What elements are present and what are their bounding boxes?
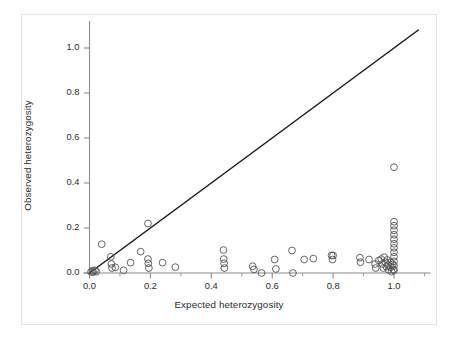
- data-point: [127, 259, 134, 266]
- data-point: [145, 265, 152, 272]
- data-point: [366, 256, 373, 263]
- y-tick-label-4: 0.8: [40, 87, 80, 97]
- data-point: [172, 264, 179, 271]
- data-point: [145, 220, 152, 227]
- x-tick-label-3: 0.6: [252, 281, 292, 291]
- x-tick-label-5: 1.0: [374, 281, 414, 291]
- y-tick-label-3: 0.6: [40, 132, 80, 142]
- data-point: [289, 247, 296, 254]
- x-tick-label-0: 0.0: [70, 281, 110, 291]
- data-point: [272, 266, 279, 273]
- data-point: [310, 255, 317, 262]
- x-axis-title: Expected heterozygosity: [0, 299, 458, 310]
- data-point: [357, 259, 364, 266]
- data-point: [391, 218, 398, 225]
- data-point: [391, 164, 398, 171]
- figure-container: Expected heterozygosity Observed heteroz…: [0, 0, 458, 338]
- y-axis-title: Observed heterozygosity: [22, 66, 33, 246]
- data-point: [271, 256, 278, 263]
- data-point: [372, 265, 379, 272]
- y-tick-label-2: 0.4: [40, 177, 80, 187]
- data-point: [220, 247, 227, 254]
- identity-line: [90, 30, 419, 273]
- data-point: [221, 265, 228, 272]
- y-tick-label-1: 0.2: [40, 222, 80, 232]
- y-tick-label-0: 0.0: [40, 267, 80, 277]
- x-tick-label-4: 0.8: [313, 281, 353, 291]
- data-point: [137, 248, 144, 255]
- x-tick-label-2: 0.4: [191, 281, 231, 291]
- data-point: [301, 256, 308, 263]
- x-tick-label-1: 0.2: [130, 281, 170, 291]
- data-point: [98, 241, 105, 248]
- y-tick-label-5: 1.0: [40, 42, 80, 52]
- data-points: [88, 164, 398, 277]
- reference-line: [90, 30, 419, 273]
- data-point: [159, 259, 166, 266]
- data-point: [330, 252, 337, 259]
- data-point: [391, 240, 398, 247]
